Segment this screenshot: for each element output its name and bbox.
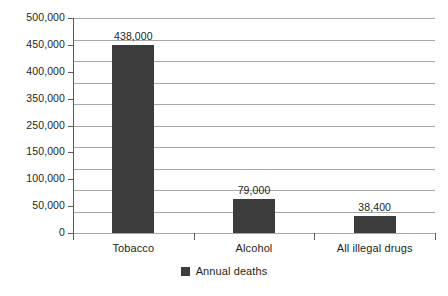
y-axis-line	[73, 18, 74, 234]
y-axis-tick-label: 350,000	[0, 93, 65, 104]
bar-chart-figure: 438,00079,00038,400 500,000450,000400,00…	[0, 0, 448, 296]
plot-area: 438,00079,00038,400	[73, 18, 435, 233]
category-label-all-illegal-drugs: All illegal drugs	[315, 241, 435, 255]
y-axis-tick	[68, 179, 73, 180]
category-axis: TobaccoAlcoholAll illegal drugs	[73, 233, 436, 259]
y-axis-tick	[68, 206, 73, 207]
y-axis-tick	[68, 126, 73, 127]
y-axis-tick-label: 50,000	[0, 200, 65, 211]
bar-tobacco	[112, 45, 154, 233]
y-axis-tick	[68, 152, 73, 153]
y-axis-tick	[68, 99, 73, 100]
category-axis-tick	[194, 233, 195, 240]
y-axis-tick-label: 450,000	[0, 39, 65, 50]
caption-sliver	[0, 288, 448, 296]
bar-all-illegal-drugs	[354, 216, 396, 233]
y-axis-tick-label: 0	[0, 227, 65, 238]
y-axis-tick	[68, 72, 73, 73]
legend-swatch-annual-deaths	[181, 267, 190, 276]
y-axis-tick-label: 150,000	[0, 146, 65, 157]
y-axis-tick	[68, 45, 73, 46]
category-label-tobacco: Tobacco	[73, 241, 193, 255]
legend-item-annual-deaths: Annual deaths	[181, 265, 268, 278]
chart-legend: Annual deaths	[0, 265, 448, 278]
y-axis-tick-label: 400,000	[0, 66, 65, 77]
y-axis-tick-label: 250,000	[0, 120, 65, 131]
bar-value-label: 38,400	[330, 202, 420, 213]
y-axis-tick-label: 500,000	[0, 12, 65, 23]
bar-value-label: 438,000	[88, 31, 178, 42]
category-axis-tick	[73, 233, 74, 240]
y-axis-tick	[68, 18, 73, 19]
y-axis-tick-label: 100,000	[0, 173, 65, 184]
legend-label-annual-deaths: Annual deaths	[196, 265, 268, 278]
bar-value-label: 79,000	[209, 185, 299, 196]
gridline	[73, 18, 435, 19]
category-axis-tick	[435, 233, 436, 240]
bar-alcohol	[233, 199, 275, 233]
category-axis-tick	[314, 233, 315, 240]
category-label-alcohol: Alcohol	[194, 241, 314, 255]
